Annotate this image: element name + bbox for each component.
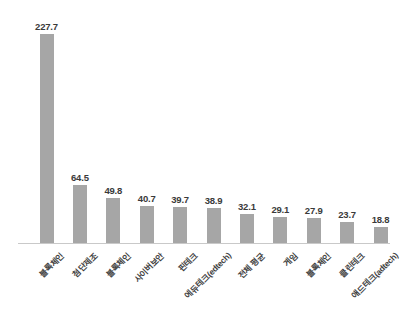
bar-value-label: 227.7 [35,21,58,32]
bar-value-label: 23.7 [338,209,356,220]
bar-group: 27.9 [307,0,321,244]
bar-value-label: 40.7 [138,193,156,204]
bar[interactable] [340,222,354,244]
bar-value-label: 38.9 [205,195,223,206]
bars-layer: 227.764.549.840.739.738.932.129.127.923.… [0,0,407,244]
bar-group: 29.1 [273,0,287,244]
bar-group: 64.5 [73,0,87,244]
bar-group: 38.9 [207,0,221,244]
bar-group: 18.8 [374,0,388,244]
bar-value-label: 18.8 [372,214,390,225]
bar-value-label: 32.1 [238,201,256,212]
bar-group: 32.1 [240,0,254,244]
bar-group: 39.7 [173,0,187,244]
bar-group: 23.7 [340,0,354,244]
bar[interactable] [307,218,321,244]
bar[interactable] [40,34,54,244]
bar[interactable] [273,217,287,244]
bar-group: 227.7 [40,0,54,244]
bar-value-label: 64.5 [71,172,89,183]
bar-value-label: 39.7 [171,194,189,205]
category-labels: 블록체인첨단제조블록체인사이버보안핀테크에듀테크(edtech)전체 평균게임블… [0,243,407,330]
bar-value-label: 27.9 [305,205,323,216]
bar[interactable] [173,207,187,244]
bar[interactable] [207,208,221,244]
bar[interactable] [240,214,254,244]
bar[interactable] [140,206,154,244]
bar-value-label: 29.1 [271,204,289,215]
bar[interactable] [73,185,87,244]
bar-group: 40.7 [140,0,154,244]
plot-area: 227.764.549.840.739.738.932.129.127.923.… [0,0,407,244]
bar-value-label: 49.8 [104,185,122,196]
bar-chart: 227.764.549.840.739.738.932.129.127.923.… [0,0,407,330]
bar-group: 49.8 [106,0,120,244]
bar[interactable] [106,198,120,244]
bar[interactable] [374,227,388,244]
